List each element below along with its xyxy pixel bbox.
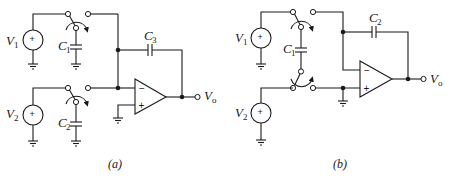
svg-text:2: 2: [66, 122, 71, 132]
svg-text:1: 1: [291, 48, 296, 58]
svg-text:+: +: [30, 34, 35, 44]
svg-text:+: +: [30, 109, 35, 119]
ground-icon: [338, 88, 348, 106]
voltage-source-v2-icon: +: [251, 88, 293, 145]
svg-text:o: o: [212, 95, 217, 105]
output-terminal-b: [421, 76, 426, 81]
capacitor-c2-icon: [70, 105, 82, 146]
svg-text:1: 1: [243, 37, 248, 47]
svg-text:1: 1: [66, 45, 71, 55]
svg-text:+: +: [364, 83, 370, 94]
caption-b: (b): [333, 157, 347, 171]
ground-icon: [28, 64, 38, 69]
circuit-a: + V 1 C 1: [6, 11, 217, 171]
capacitor-c3-icon: [118, 44, 182, 97]
svg-text:−: −: [139, 83, 145, 94]
svg-text:+: +: [258, 107, 263, 117]
opamp-icon: − +: [113, 79, 195, 123]
circuit-b: + V 1 C 1: [235, 9, 443, 171]
capacitor-c2-icon: [343, 26, 408, 79]
switch-2-icon: [65, 85, 118, 104]
capacitor-c1-icon: [70, 31, 82, 69]
svg-text:3: 3: [152, 35, 157, 45]
switched-capacitor-figure: + V 1 C 1: [0, 0, 451, 183]
switch-lower-icon: [290, 69, 360, 91]
output-terminal-a: [195, 94, 200, 99]
svg-text:2: 2: [243, 112, 248, 122]
opamp-icon: − +: [360, 61, 421, 97]
svg-text:o: o: [438, 78, 443, 88]
svg-text:−: −: [364, 65, 370, 76]
svg-text:1: 1: [14, 40, 19, 50]
caption-a: (a): [108, 157, 122, 171]
svg-text:+: +: [139, 100, 145, 111]
svg-text:2: 2: [377, 17, 382, 27]
svg-text:+: +: [258, 32, 263, 42]
switch-1-icon: [65, 11, 118, 30]
capacitor-c1-icon: [295, 30, 307, 69]
svg-text:2: 2: [14, 113, 19, 123]
